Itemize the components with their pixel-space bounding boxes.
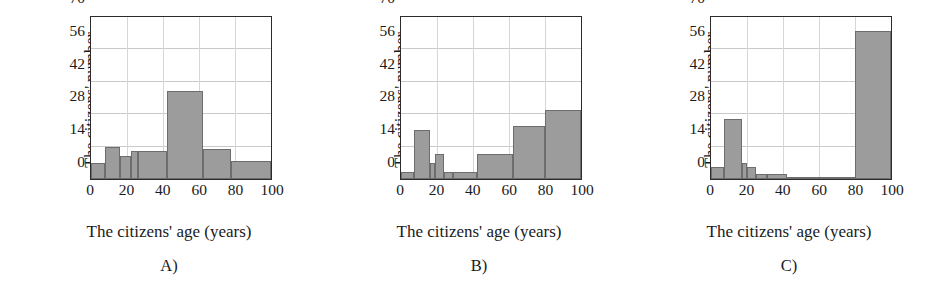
y-tick-label: 42 [380, 55, 401, 73]
x-tick-label: 40 [775, 181, 791, 199]
x-tick-label: 0 [396, 181, 404, 199]
y-tick-label: 28 [380, 87, 401, 105]
y-axis-ticks: 01428425670 [710, 16, 892, 180]
x-tick-label: 80 [228, 181, 244, 199]
x-axis-title: The citizens' age (years) [648, 222, 930, 242]
y-tick-label: 42 [690, 55, 711, 73]
chart-panel-c: The citizens' numberin the given age ran… [620, 0, 930, 302]
histogram-figure: The citizens' numberin the given age ran… [0, 0, 931, 302]
y-tick-label: 14 [690, 120, 711, 138]
y-tick-label: 42 [70, 55, 91, 73]
x-tick-label: 100 [880, 181, 903, 199]
y-tick-label: 28 [690, 87, 711, 105]
x-tick-label: 60 [811, 181, 827, 199]
y-tick-label: 14 [380, 120, 401, 138]
y-tick-label: 56 [70, 22, 91, 40]
plot-area: 01428425670020406080100 [62, 16, 272, 201]
x-tick-label: 0 [86, 181, 94, 199]
x-tick-label: 80 [538, 181, 554, 199]
y-axis-ticks: 01428425670 [400, 16, 582, 180]
x-tick-label: 0 [706, 181, 714, 199]
x-tick-label: 100 [570, 181, 593, 199]
x-tick-label: 20 [739, 181, 755, 199]
y-tick-label: 0 [387, 153, 400, 171]
x-tick-label: 60 [191, 181, 207, 199]
y-tick-label: 28 [70, 87, 91, 105]
x-axis-ticks: 020406080100 [400, 180, 582, 201]
chart-panel-a: The citizens' numberin the given age ran… [0, 0, 310, 302]
x-tick-label: 20 [119, 181, 135, 199]
y-tick-label: 0 [697, 153, 710, 171]
y-tick-label: 70 [690, 0, 711, 7]
y-tick-label: 14 [70, 120, 91, 138]
x-tick-label: 100 [260, 181, 283, 199]
x-tick-label: 60 [501, 181, 517, 199]
x-axis-title: The citizens' age (years) [28, 222, 310, 242]
chart-panel-b: The citizens' numberin the given age ran… [310, 0, 620, 302]
x-tick-label: 40 [465, 181, 481, 199]
x-axis-ticks: 020406080100 [710, 180, 892, 201]
x-axis-ticks: 020406080100 [90, 180, 272, 201]
y-tick-label: 70 [70, 0, 91, 7]
panel-caption: B) [338, 256, 620, 276]
y-tick-label: 56 [690, 22, 711, 40]
x-axis-title: The citizens' age (years) [338, 222, 620, 242]
y-tick-label: 0 [77, 153, 90, 171]
x-tick-label: 80 [848, 181, 864, 199]
y-axis-ticks: 01428425670 [90, 16, 272, 180]
x-tick-label: 40 [155, 181, 171, 199]
x-tick-label: 20 [429, 181, 445, 199]
y-tick-label: 56 [380, 22, 401, 40]
panel-caption: A) [28, 256, 310, 276]
plot-area: 01428425670020406080100 [372, 16, 582, 201]
plot-area: 01428425670020406080100 [682, 16, 892, 201]
y-tick-label: 70 [380, 0, 401, 7]
panel-caption: C) [648, 256, 930, 276]
